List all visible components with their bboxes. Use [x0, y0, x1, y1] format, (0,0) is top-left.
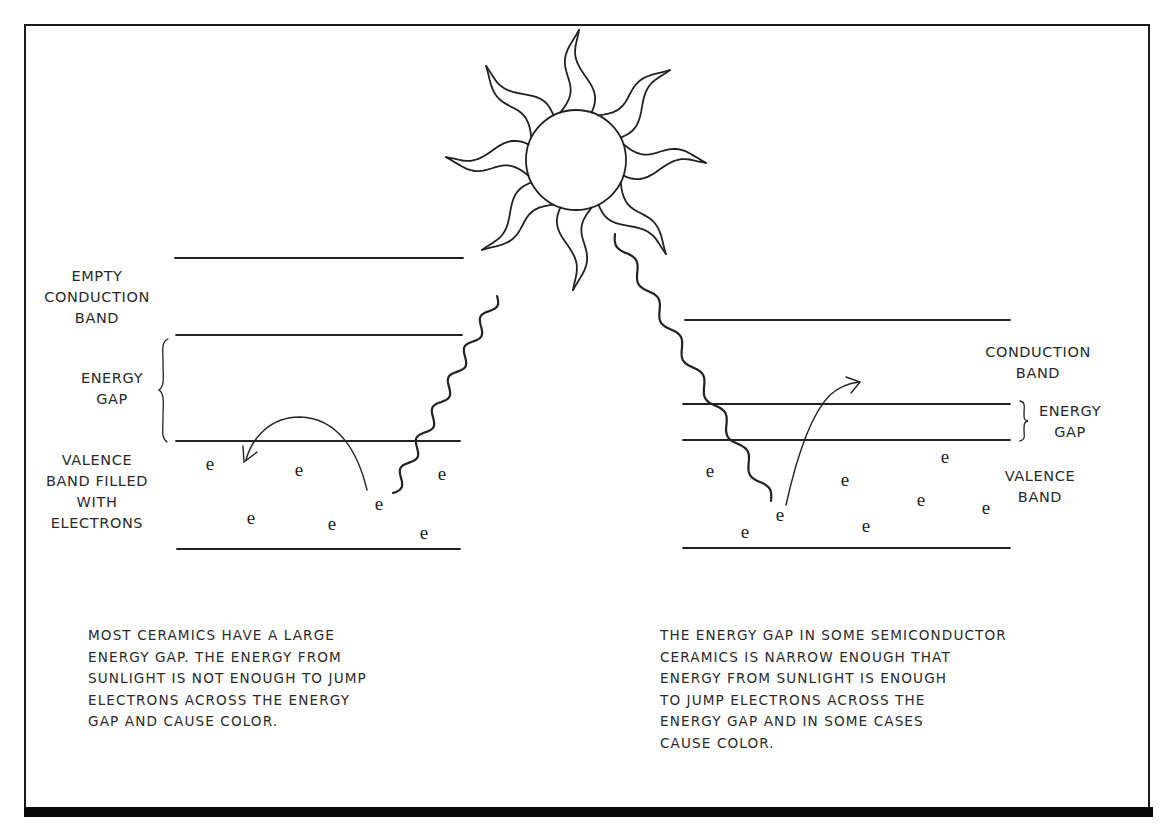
right-gap-brace: [1020, 401, 1028, 441]
electron: e: [706, 460, 714, 481]
sun-ray: [486, 66, 553, 115]
left-conduction-band-label: EMPTY CONDUCTION BAND: [22, 266, 172, 329]
sun-ray: [446, 141, 529, 161]
electron: e: [420, 522, 428, 543]
right-energy-gap-label: ENERGY GAP: [1030, 401, 1110, 443]
right-light-wave: [615, 234, 772, 501]
electron: e: [776, 504, 784, 525]
right-caption: THE ENERGY GAP IN SOME SEMICONDUCTOR CER…: [660, 625, 1060, 754]
sun-ray: [621, 70, 670, 138]
electron: e: [941, 446, 949, 467]
electron: e: [438, 463, 446, 484]
sun-ray: [482, 182, 531, 250]
left-electrons: eeeeeee: [206, 453, 446, 543]
left-caption: MOST CERAMICS HAVE A LARGE ENERGY GAP. T…: [88, 625, 418, 733]
electron: e: [862, 515, 870, 536]
right-valence-band-label: VALENCE BAND: [985, 466, 1095, 508]
electron: e: [247, 507, 255, 528]
right-conduction-band-label: CONDUCTION BAND: [978, 342, 1098, 384]
sun-ray: [575, 30, 595, 113]
sun-ray: [598, 205, 666, 254]
electron: e: [295, 459, 303, 480]
electron: e: [375, 493, 383, 514]
electron: e: [917, 489, 925, 510]
sun-ray: [557, 208, 577, 291]
left-valence-band-label: VALENCE BAND FILLED WITH ELECTRONS: [32, 450, 162, 534]
sun-ray: [624, 159, 707, 179]
electron: e: [206, 453, 214, 474]
electron: e: [741, 521, 749, 542]
left-electron-arc-arrow: [246, 417, 367, 490]
electron: e: [841, 469, 849, 490]
sun-icon: [446, 30, 706, 290]
sun-disk: [526, 110, 626, 210]
electron: e: [328, 513, 336, 534]
left-energy-gap-label: ENERGY GAP: [62, 368, 162, 410]
